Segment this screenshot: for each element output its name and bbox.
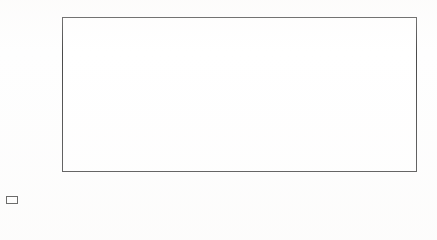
x-axis-tick-labels (62, 174, 417, 188)
chart-figure (0, 0, 437, 240)
y-axis-tick-labels (22, 0, 58, 240)
chart-legend (6, 196, 18, 204)
bar-group (63, 18, 416, 171)
plot-area (62, 17, 417, 172)
